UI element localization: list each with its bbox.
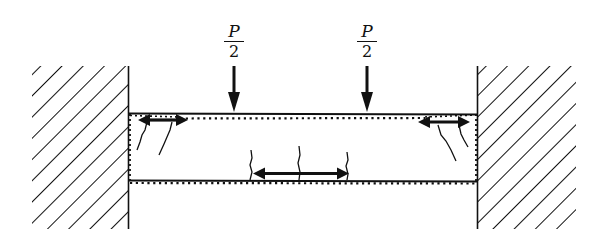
load-label-right: P 2 (355, 22, 379, 61)
cracks-top-left (137, 122, 172, 155)
force-arrow-bottom-mid (253, 168, 349, 180)
load-label-numerator: P (355, 22, 379, 40)
load-label-denominator: 2 (222, 43, 246, 61)
load-arrow-left (228, 66, 240, 112)
load-arrow-right (361, 66, 373, 112)
load-label-left: P 2 (222, 22, 246, 61)
load-label-denominator: 2 (355, 43, 379, 61)
load-label-numerator: P (222, 22, 246, 40)
left-fixed-support (32, 66, 129, 229)
cracks-top-right (438, 125, 468, 161)
force-arrow-top-right (418, 116, 470, 128)
bottom-reinforcement (130, 183, 476, 184)
right-fixed-support (478, 66, 577, 229)
fixed-beam-diagram (0, 0, 597, 251)
